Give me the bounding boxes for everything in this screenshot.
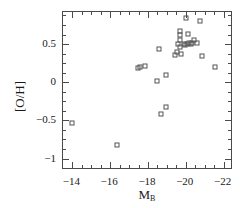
y-axis-minor-tick xyxy=(63,63,66,64)
x-axis-major-tick xyxy=(110,162,111,168)
x-axis-top-minor-tick xyxy=(214,12,215,15)
y-axis-minor-tick xyxy=(63,73,66,74)
x-axis-minor-tick xyxy=(176,165,177,168)
data-point xyxy=(195,40,200,45)
x-axis-top-minor-tick xyxy=(167,12,168,15)
y-axis-major-tick xyxy=(63,44,69,45)
y-axis-right-minor-tick xyxy=(228,130,231,131)
y-axis-major-tick xyxy=(63,120,69,121)
x-axis-top-minor-tick xyxy=(129,12,130,15)
data-point xyxy=(185,32,190,37)
x-axis-minor-tick xyxy=(214,165,215,168)
y-axis-right-minor-tick xyxy=(228,35,231,36)
x-axis-tick-label: −22 xyxy=(214,176,231,187)
y-axis-minor-tick xyxy=(63,15,66,16)
y-axis-right-minor-tick xyxy=(228,92,231,93)
x-axis-minor-tick xyxy=(205,165,206,168)
y-axis-right-minor-tick xyxy=(228,73,231,74)
data-point xyxy=(143,64,148,69)
x-axis-top-major-tick xyxy=(186,12,187,18)
x-axis-minor-tick xyxy=(195,165,196,168)
y-axis-major-tick xyxy=(63,82,69,83)
x-axis-top-major-tick xyxy=(148,12,149,18)
scatter-plot-figure: MB [O/H] −14−16−18−20−220.50−0.5−1 xyxy=(0,0,245,208)
y-axis-tick-label: −1 xyxy=(20,152,56,163)
data-point xyxy=(197,19,202,24)
x-axis-top-major-tick xyxy=(110,12,111,18)
x-axis-top-minor-tick xyxy=(205,12,206,15)
data-point xyxy=(114,142,119,147)
y-axis-minor-tick xyxy=(63,168,66,169)
data-point xyxy=(135,66,140,71)
y-axis-right-major-tick xyxy=(225,159,231,160)
y-axis-right-minor-tick xyxy=(228,25,231,26)
data-point xyxy=(199,53,204,58)
x-axis-minor-tick xyxy=(157,165,158,168)
y-axis-minor-tick xyxy=(63,101,66,102)
y-axis-minor-tick xyxy=(63,149,66,150)
x-axis-top-major-tick xyxy=(224,12,225,18)
x-axis-top-minor-tick xyxy=(139,12,140,15)
y-axis-tick-label: −0.5 xyxy=(20,114,56,125)
data-point xyxy=(163,73,168,78)
y-axis-minor-tick xyxy=(63,139,66,140)
y-axis-right-minor-tick xyxy=(228,139,231,140)
x-axis-minor-tick xyxy=(82,165,83,168)
x-axis-tick-label: −18 xyxy=(138,176,155,187)
x-axis-top-minor-tick xyxy=(91,12,92,15)
y-axis-minor-tick xyxy=(63,130,66,131)
x-axis-top-minor-tick xyxy=(101,12,102,15)
y-axis-right-minor-tick xyxy=(228,111,231,112)
y-axis-minor-tick xyxy=(63,92,66,93)
data-point xyxy=(213,64,218,69)
x-axis-top-minor-tick xyxy=(176,12,177,15)
y-axis-right-minor-tick xyxy=(228,101,231,102)
y-axis-right-minor-tick xyxy=(228,54,231,55)
y-axis-right-major-tick xyxy=(225,82,231,83)
x-axis-major-tick xyxy=(186,162,187,168)
x-axis-top-minor-tick xyxy=(195,12,196,15)
x-axis-minor-tick xyxy=(101,165,102,168)
data-point xyxy=(157,46,162,51)
y-axis-minor-tick xyxy=(63,54,66,55)
x-axis-top-major-tick xyxy=(72,12,73,18)
x-axis-label-base: M xyxy=(139,187,151,202)
x-axis-minor-tick xyxy=(91,165,92,168)
y-axis-minor-tick xyxy=(63,35,66,36)
y-axis-minor-tick xyxy=(63,111,66,112)
y-axis-right-minor-tick xyxy=(228,149,231,150)
data-point xyxy=(69,121,74,126)
y-axis-minor-tick xyxy=(63,25,66,26)
x-axis-major-tick xyxy=(148,162,149,168)
data-points-layer xyxy=(63,12,231,168)
x-axis-minor-tick xyxy=(167,165,168,168)
y-axis-right-minor-tick xyxy=(228,168,231,169)
x-axis-tick-label: −16 xyxy=(101,176,118,187)
x-axis-top-minor-tick xyxy=(120,12,121,15)
x-axis-minor-tick xyxy=(129,165,130,168)
data-point xyxy=(173,52,178,57)
x-axis-major-tick xyxy=(224,162,225,168)
x-axis-top-minor-tick xyxy=(157,12,158,15)
x-axis-minor-tick xyxy=(120,165,121,168)
y-axis-right-minor-tick xyxy=(228,63,231,64)
x-axis-top-minor-tick xyxy=(82,12,83,15)
y-axis-major-tick xyxy=(63,159,69,160)
data-point xyxy=(179,51,184,56)
y-axis-tick-label: 0.5 xyxy=(20,38,56,49)
y-axis-tick-label: 0 xyxy=(20,76,56,87)
data-point xyxy=(159,111,164,116)
x-axis-major-tick xyxy=(72,162,73,168)
x-axis-tick-label: −20 xyxy=(176,176,193,187)
x-axis-tick-label: −14 xyxy=(63,176,80,187)
y-axis-right-major-tick xyxy=(225,44,231,45)
y-axis-right-major-tick xyxy=(225,120,231,121)
data-point xyxy=(178,29,183,34)
y-axis-right-minor-tick xyxy=(228,15,231,16)
data-point xyxy=(163,104,168,109)
x-axis-minor-tick xyxy=(139,165,140,168)
data-point xyxy=(154,79,159,84)
x-axis-label: MB xyxy=(62,188,232,201)
plot-frame xyxy=(62,11,232,169)
x-axis-label-subscript: B xyxy=(150,194,155,203)
